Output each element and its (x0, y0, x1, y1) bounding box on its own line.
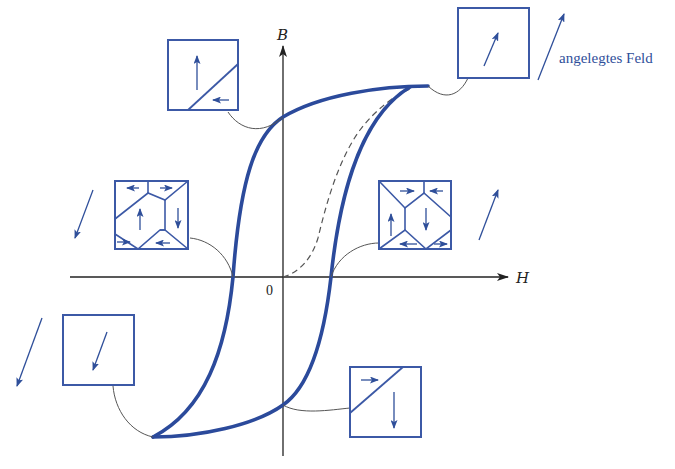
hysteresis-diagram: H B 0 angelegtes Feld (0, 0, 675, 469)
domain-box-coercive-negative (115, 181, 188, 249)
field-arrow-bottom-left (17, 318, 42, 386)
applied-field-label: angelegtes Feld (559, 50, 653, 66)
applied-field-indicator: angelegtes Feld (538, 14, 653, 80)
domain-box-saturation-positive (458, 8, 529, 78)
leader-coercive-positive (331, 243, 379, 277)
leader-remanence-positive (228, 112, 283, 129)
leader-saturation-positive (428, 78, 468, 95)
domain-box-remanence-positive (168, 40, 238, 110)
leader-remanence-negative (283, 405, 350, 411)
domain-box-saturation-negative (63, 315, 134, 385)
leader-coercive-negative (190, 238, 233, 277)
h-axis-label: H (515, 269, 530, 287)
leader-saturation-negative (113, 386, 153, 437)
domain-box-coercive-positive (379, 181, 451, 249)
b-axis-label: B (276, 26, 288, 44)
domain-box-remanence-negative (350, 367, 421, 437)
origin-label: 0 (266, 283, 273, 298)
field-arrow-middle-left (75, 190, 93, 238)
field-arrow-middle-right (479, 190, 498, 240)
field-arrow-top-right (538, 14, 564, 80)
